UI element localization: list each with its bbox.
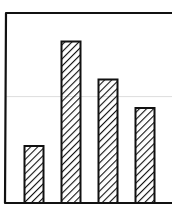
bar	[62, 42, 81, 204]
bar	[99, 80, 118, 204]
bar	[25, 146, 44, 203]
bar	[136, 108, 155, 203]
bar-chart	[0, 0, 172, 213]
bars	[25, 42, 155, 204]
